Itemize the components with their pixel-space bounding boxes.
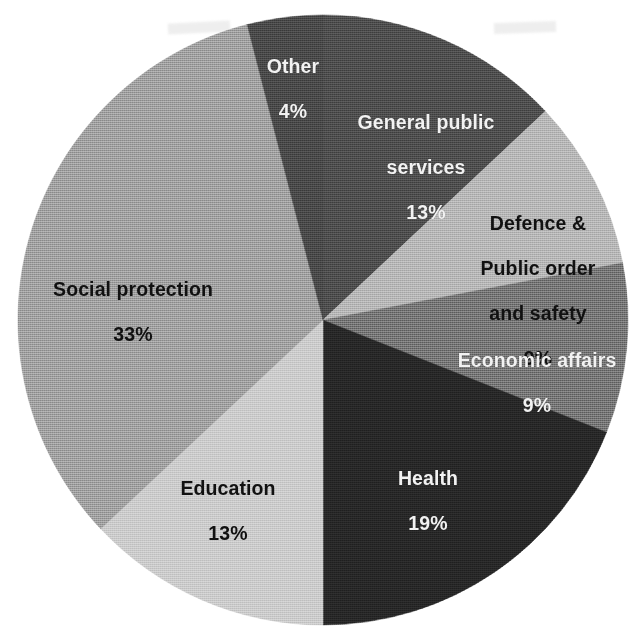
pie-chart-figure: General public services 13% Defence & Pu… xyxy=(0,0,644,631)
pie-slice-group xyxy=(18,15,628,625)
pie-svg xyxy=(17,14,629,626)
pie-graphic xyxy=(17,14,629,626)
